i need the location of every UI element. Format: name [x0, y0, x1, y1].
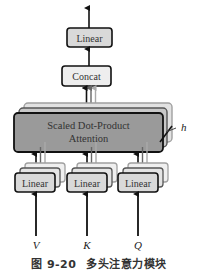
- attention-label-line2: Attention: [69, 133, 109, 144]
- heads-label: h: [181, 121, 187, 133]
- figure-caption: 图 9-20多头注意力模块: [0, 255, 198, 271]
- input-k-label: K: [82, 239, 91, 251]
- input-arrows: [36, 194, 138, 236]
- linear-k-stack: Linear: [67, 163, 117, 192]
- figure-title: 多头注意力模块: [86, 258, 167, 271]
- linear-q-label: Linear: [125, 178, 152, 189]
- figure-number: 图 9-20: [31, 258, 76, 271]
- attention-label-line1: Scaled Dot-Product: [47, 120, 130, 131]
- concat-label: Concat: [72, 71, 101, 82]
- output-linear-box: Linear: [67, 28, 112, 47]
- input-q-label: Q: [134, 239, 142, 251]
- linear-q-stack: Linear: [118, 163, 168, 192]
- linear-k-label: Linear: [74, 178, 101, 189]
- concat-box: Concat: [62, 66, 111, 86]
- multi-head-attention-diagram: Linear Concat Scaled Dot-Product Attenti…: [0, 0, 198, 277]
- linear-v-stack: Linear: [15, 163, 65, 192]
- scaled-dot-product-attention-box: Scaled Dot-Product Attention: [14, 113, 163, 152]
- output-linear-label: Linear: [76, 33, 103, 44]
- linear-v-label: Linear: [22, 178, 49, 189]
- input-v-label: V: [33, 239, 41, 251]
